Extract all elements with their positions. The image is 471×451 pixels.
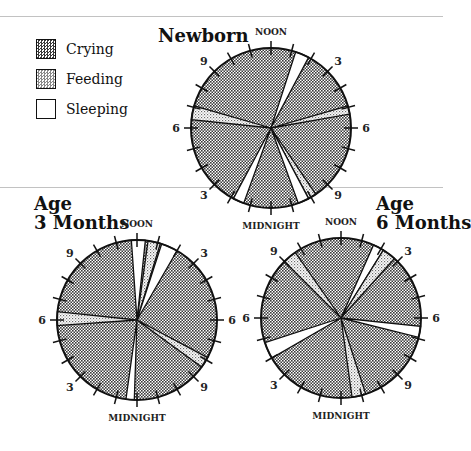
- hour-label-midnight: MIDNIGHT: [108, 413, 166, 423]
- clock-chart-6-months: NOON369MIDNIGHT369: [242, 217, 440, 421]
- hour-label-6: 6: [228, 314, 236, 327]
- hour-label-9: 9: [200, 381, 208, 394]
- hour-label-3: 3: [270, 379, 278, 392]
- hour-label-6: 6: [362, 122, 370, 135]
- hour-label-9: 9: [200, 55, 208, 68]
- hour-label-9: 9: [334, 189, 342, 202]
- hour-label-3: 3: [334, 55, 342, 68]
- clock-chart-newborn: NOON369MIDNIGHT369: [172, 27, 370, 231]
- clock-chart-3-months: NOON369MIDNIGHT369: [38, 219, 236, 423]
- hour-label-9: 9: [270, 245, 278, 258]
- hour-label-9: 9: [404, 379, 412, 392]
- hour-label-6: 6: [432, 312, 440, 325]
- hour-label-noon: NOON: [325, 217, 357, 227]
- hour-label-6: 6: [38, 314, 46, 327]
- hour-label-3: 3: [200, 189, 208, 202]
- hour-label-6: 6: [172, 122, 180, 135]
- hour-label-3: 3: [200, 247, 208, 260]
- hour-label-3: 3: [66, 381, 74, 394]
- hour-label-6: 6: [242, 312, 250, 325]
- hour-label-3: 3: [404, 245, 412, 258]
- hour-label-midnight: MIDNIGHT: [312, 411, 370, 421]
- hour-label-noon: NOON: [255, 27, 287, 37]
- hour-label-9: 9: [66, 247, 74, 260]
- hour-label-midnight: MIDNIGHT: [242, 221, 300, 231]
- hour-label-noon: NOON: [121, 219, 153, 229]
